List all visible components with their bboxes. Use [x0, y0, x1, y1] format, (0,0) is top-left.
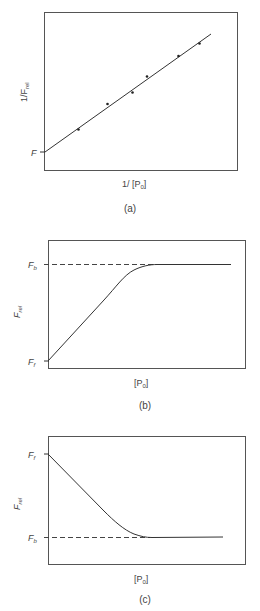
- y-axis-label: Frel: [12, 305, 23, 318]
- data-point: [198, 42, 201, 45]
- y-tick-label-f: F: [31, 148, 37, 158]
- quenching-curve: [48, 454, 223, 538]
- y-tick-label-ff: Ff: [28, 357, 37, 368]
- panel-a: F 1/Frel 1/ [P0] (a): [19, 13, 238, 215]
- y-tick-label-fb: Fb: [28, 260, 38, 271]
- y-axis-label: 1/Frel: [19, 82, 30, 102]
- y-tick-label-ff: Ff: [28, 450, 37, 461]
- caption-c: (c): [139, 594, 151, 605]
- caption-b: (b): [139, 400, 151, 411]
- figure: F 1/Frel 1/ [P0] (a) Fb Ff Frel [P0] (b): [0, 0, 260, 611]
- x-axis-label: [P0]: [134, 574, 148, 585]
- caption-a: (a): [124, 203, 136, 214]
- panel-c: Ff Fb Frel [P0] (c): [12, 437, 246, 606]
- fit-line: [45, 34, 211, 152]
- plot-frame: [49, 241, 246, 369]
- x-axis-label: 1/ [P0]: [122, 179, 146, 190]
- data-point: [106, 103, 109, 106]
- data-points: [77, 42, 201, 131]
- data-point: [146, 75, 149, 78]
- plot-frame: [49, 437, 246, 565]
- y-axis-label: Frel: [12, 497, 23, 510]
- panel-b: Fb Ff Frel [P0] (b): [12, 241, 246, 412]
- data-point: [77, 128, 80, 131]
- y-tick-label-fb: Fb: [28, 533, 38, 544]
- binding-curve: [48, 265, 231, 362]
- data-point: [131, 91, 134, 94]
- x-axis-label: [P0]: [134, 378, 148, 389]
- data-point: [177, 55, 180, 58]
